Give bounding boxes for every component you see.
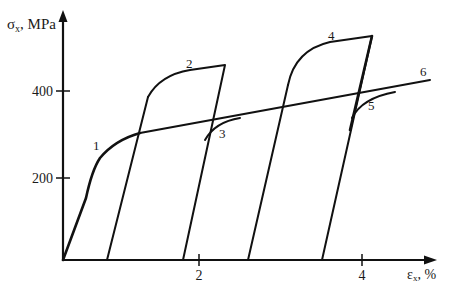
x-axis-arrow-icon	[424, 256, 437, 265]
y-tick-label-200: 200	[32, 171, 53, 186]
curve-label-6: 6	[420, 64, 427, 79]
curve-4	[288, 36, 372, 260]
stress-strain-chart: 400 200 2 4 σx, MPa εx, % 1 2 3 4 5 6	[0, 0, 454, 294]
curve-label-5: 5	[368, 98, 375, 113]
curve-1	[63, 133, 140, 260]
curve-6	[140, 80, 430, 133]
x-tick-label-4: 4	[359, 268, 366, 283]
curve-label-2: 2	[186, 56, 193, 71]
curve-label-1: 1	[93, 138, 100, 153]
y-axis-title: σx, MPa	[7, 16, 56, 34]
x-tick-label-2: 2	[196, 268, 203, 283]
curve-label-3: 3	[219, 126, 226, 141]
curve-2	[148, 65, 225, 260]
curve-label-4: 4	[328, 28, 335, 43]
y-axis-arrow-icon	[59, 10, 68, 22]
x-axis-title: εx, %	[407, 267, 436, 283]
reload-line-2	[107, 97, 148, 260]
y-tick-label-400: 400	[32, 84, 53, 99]
